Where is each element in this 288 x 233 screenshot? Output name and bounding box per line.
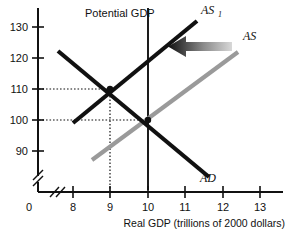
x-tick-label-0: 0 bbox=[26, 201, 32, 213]
x-tick-labels: 0 8 9 10 11 12 13 bbox=[26, 201, 266, 213]
y-tick-label-130: 130 bbox=[10, 21, 28, 33]
as-curve bbox=[92, 52, 238, 160]
as-ad-chart: 130 120 110 100 90 0 8 9 10 11 12 13 bbox=[0, 0, 288, 233]
x-tick-label-12: 12 bbox=[217, 201, 229, 213]
y-tick-label-110: 110 bbox=[10, 83, 28, 95]
chart-canvas: 130 120 110 100 90 0 8 9 10 11 12 13 bbox=[0, 0, 288, 233]
as1-label-group: AS 1 bbox=[200, 3, 222, 19]
y-tick-label-120: 120 bbox=[10, 52, 28, 64]
x-tick-label-8: 8 bbox=[70, 201, 76, 213]
y-tick-label-90: 90 bbox=[16, 145, 28, 157]
new-equilibrium-dot bbox=[107, 86, 113, 92]
ad-label: AD bbox=[199, 171, 216, 185]
as1-label-subscript: 1 bbox=[218, 10, 222, 19]
as-label: AS bbox=[242, 29, 256, 43]
x-tick-label-10: 10 bbox=[142, 201, 154, 213]
y-tick-label-100: 100 bbox=[10, 114, 28, 126]
x-tick-label-13: 13 bbox=[254, 201, 266, 213]
x-tick-label-9: 9 bbox=[107, 201, 113, 213]
x-tick-label-11: 11 bbox=[179, 201, 190, 213]
as1-label: AS bbox=[200, 3, 214, 17]
as1-curve bbox=[73, 21, 197, 123]
original-equilibrium-dot bbox=[145, 117, 151, 123]
y-tick-labels: 130 120 110 100 90 bbox=[10, 21, 28, 157]
potential-gdp-label: Potential GDP bbox=[85, 7, 155, 19]
x-axis-title: Real GDP (trillions of 2000 dollars) bbox=[124, 217, 285, 229]
